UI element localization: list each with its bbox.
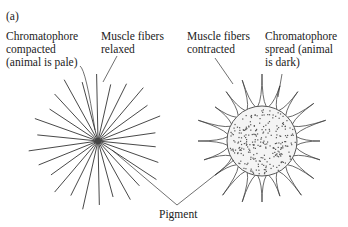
compacted-chromatophore — [29, 74, 160, 209]
pigment-dot — [95, 138, 101, 144]
chromatophore-diagram — [0, 0, 348, 227]
pigment-sphere — [227, 106, 297, 176]
